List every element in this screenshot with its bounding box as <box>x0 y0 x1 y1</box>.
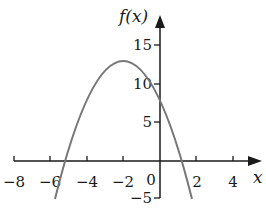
x-tick-label: 2 <box>192 173 202 191</box>
x-tick-label: −8 <box>3 173 25 191</box>
x-tick-label: 0 <box>146 171 156 189</box>
x-axis-title: x <box>253 167 263 187</box>
y-axis-title: f(x) <box>117 6 148 26</box>
x-axis-arrow-icon <box>248 156 262 166</box>
y-tick-label: 5 <box>142 113 152 131</box>
y-tick-label: 15 <box>133 36 152 54</box>
x-tick-label: −4 <box>76 173 98 191</box>
y-tick-label: −5 <box>130 189 152 207</box>
y-tick-label: 10 <box>133 75 152 93</box>
y-axis-arrow-icon <box>155 15 165 28</box>
x-tick-label: 4 <box>228 173 238 191</box>
chart: −8 −6 −4 −2 0 2 4 15 10 5 −5 f(x) x <box>0 0 266 219</box>
